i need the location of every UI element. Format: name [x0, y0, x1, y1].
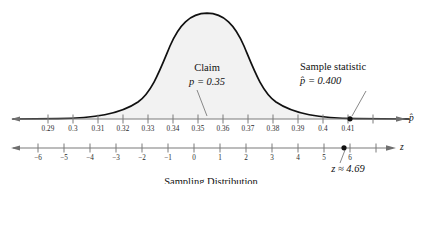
z-axis-tick-label: −1: [164, 154, 172, 162]
figure-caption: Sampling Distribution: [164, 176, 258, 184]
p-axis-tick-label: 0.34: [167, 125, 180, 133]
z-axis-tick-label: −6: [34, 154, 42, 162]
claim-label-value: p = 0.35: [189, 76, 225, 87]
p-axis-tick-label: 0.32: [117, 125, 130, 133]
sample-statistic-label-title: Sample statistic: [300, 61, 366, 72]
p-hat-axis-left-arrow: [11, 116, 20, 121]
p-axis-tick-label: 0.41: [342, 125, 355, 133]
p-axis-tick-label: 0.39: [292, 125, 305, 133]
z-axis-tick-label: −4: [86, 154, 94, 162]
z-axis-name: z: [400, 142, 404, 152]
z-axis-tick-label: 1: [218, 154, 222, 162]
z-axis-right-arrow: [386, 145, 396, 151]
p-axis-tick-label: 0.35: [192, 125, 205, 133]
p-hat-axis-right-arrow: [396, 116, 406, 122]
z-axis-tick-label: −3: [112, 154, 120, 162]
z-axis-tick-label: 6: [348, 154, 352, 162]
p-axis-tick-label: 0.36: [217, 125, 230, 133]
z-axis-tick-label: 0: [192, 154, 196, 162]
sample-statistic-leader-line: [352, 91, 366, 116]
p-axis-tick-label: 0.29: [42, 125, 55, 133]
p-hat-axis-name: p̂: [409, 113, 414, 123]
z-axis-tick-label: 5: [322, 154, 326, 162]
p-axis-tick-label: 0.31: [92, 125, 105, 133]
p-axis-tick-label: 0.38: [267, 125, 280, 133]
p-axis-tick-label: 0.33: [142, 125, 155, 133]
claim-label-title: Claim: [194, 62, 220, 73]
sample-statistic-point-p-axis: [347, 116, 352, 121]
z-value-label: z ≈ 4.69: [331, 163, 364, 174]
z-value-leader-line: [340, 150, 345, 163]
p-axis-tick-label: 0.4: [318, 125, 327, 133]
z-axis-tick-label: −5: [60, 154, 68, 162]
p-axis-tick-label: 0.37: [242, 125, 255, 133]
p-axis-tick-label: 0.3: [68, 125, 77, 133]
z-axis-tick-label: −2: [138, 154, 146, 162]
sample-statistic-point-z-axis: [341, 145, 346, 150]
z-axis-tick-label: 2: [244, 154, 248, 162]
z-axis-tick-label: 3: [270, 154, 274, 162]
z-axis-left-arrow: [11, 145, 20, 150]
z-axis-tick-label: 4: [296, 154, 300, 162]
sample-statistic-label-value: p̂ = 0.400: [300, 75, 341, 86]
